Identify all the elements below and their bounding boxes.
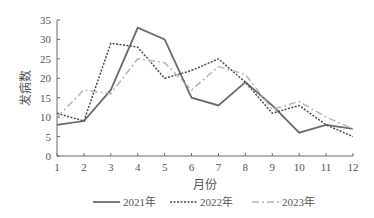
x-tick-label: 5 [162, 161, 168, 173]
x-tick-label: 2 [81, 161, 87, 173]
legend: 2021年2022年2023年 [93, 195, 315, 208]
legend-label-3: 2023年 [282, 195, 315, 208]
x-tick-label: 4 [135, 161, 141, 173]
y-tick-label: 30 [40, 33, 52, 45]
series-line-2 [57, 43, 353, 136]
y-tick-label: 10 [40, 111, 52, 123]
legend-label-2: 2022年 [200, 195, 233, 208]
x-tick-label: 6 [189, 161, 195, 173]
series-lines [57, 28, 353, 137]
y-axis: 05101520253035 [40, 14, 60, 162]
x-axis-title: 月份 [193, 178, 217, 192]
series-line-3 [57, 59, 353, 129]
x-tick-label: 8 [243, 161, 249, 173]
y-tick-label: 0 [46, 150, 52, 162]
x-tick-label: 7 [216, 161, 222, 173]
x-axis: 123456789101112 [54, 153, 358, 173]
y-axis-title: 发病数 [18, 70, 33, 106]
y-tick-label: 35 [40, 14, 52, 26]
x-tick-label: 10 [294, 161, 306, 173]
line-chart: 05101520253035 123456789101112 发病数 月份 20… [0, 0, 374, 218]
y-tick-label: 25 [40, 53, 52, 65]
legend-label-1: 2021年 [123, 195, 156, 208]
series-line-1 [57, 28, 353, 133]
y-tick-label: 20 [40, 72, 52, 84]
y-tick-label: 15 [40, 92, 52, 104]
x-tick-label: 11 [321, 161, 332, 173]
x-tick-label: 9 [270, 161, 276, 173]
x-tick-label: 1 [54, 161, 60, 173]
x-tick-label: 12 [348, 161, 359, 173]
x-tick-label: 3 [108, 161, 114, 173]
y-tick-label: 5 [46, 131, 52, 143]
